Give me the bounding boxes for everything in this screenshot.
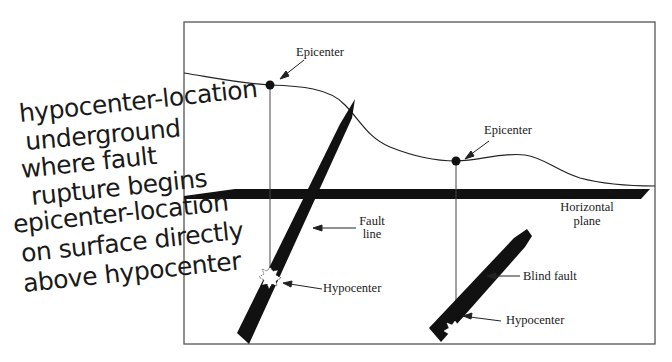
hypocenter-2-burst xyxy=(444,321,466,343)
horizontal-plane xyxy=(184,189,650,199)
horizontal-plane-label-2: plane xyxy=(573,214,601,228)
handwritten-notes: hypocenter-location underground where fa… xyxy=(12,74,259,298)
epicenter-1-marker xyxy=(266,81,275,90)
epicenter-1-label: Epicenter xyxy=(296,45,345,59)
horizontal-plane-label-1: Horizontal xyxy=(560,200,614,214)
hypocenter-2-label: Hypocenter xyxy=(506,313,565,327)
fault-line-label-2: line xyxy=(363,227,382,241)
epicenter-2-marker xyxy=(452,157,461,166)
diagram-frame xyxy=(184,22,655,344)
fault-line-shape xyxy=(237,99,355,344)
earthquake-diagram: Epicenter Epicenter Horizontal plane Fau… xyxy=(0,0,672,362)
fault-line-label-1: Fault xyxy=(359,214,385,228)
epicenter-2-label: Epicenter xyxy=(484,123,533,137)
hypocenter-1-label: Hypocenter xyxy=(323,281,382,295)
blind-fault-label: Blind fault xyxy=(523,269,577,283)
